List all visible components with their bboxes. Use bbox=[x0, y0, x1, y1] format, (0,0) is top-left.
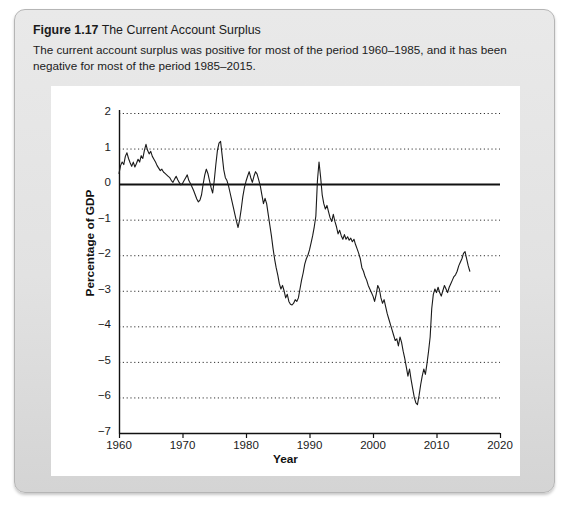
plot-area: Percentage of GDP Year 210−1−2−3−4−5−6−7… bbox=[51, 86, 520, 476]
y-tick-label: −7 bbox=[83, 425, 111, 437]
x-tick-label: 1960 bbox=[102, 439, 136, 451]
x-tick-label: 1970 bbox=[166, 439, 200, 451]
y-tick-label: 1 bbox=[83, 141, 111, 153]
x-tick-label: 2000 bbox=[356, 439, 390, 451]
y-tick-label: −1 bbox=[83, 212, 111, 224]
x-tick-label: 1990 bbox=[293, 439, 327, 451]
x-tick-label: 2010 bbox=[420, 439, 454, 451]
y-tick-label: −2 bbox=[83, 247, 111, 259]
y-axis-title: Percentage of GDP bbox=[83, 190, 97, 297]
y-tick-label: 0 bbox=[83, 176, 111, 188]
chart-panel: Percentage of GDP Year 210−1−2−3−4−5−6−7… bbox=[51, 86, 520, 476]
y-tick-label: −3 bbox=[83, 283, 111, 295]
y-tick-label: 2 bbox=[83, 105, 111, 117]
figure-frame: Figure 1.17 The Current Account Surplus … bbox=[14, 9, 555, 493]
figure-subtitle: The current account surplus was positive… bbox=[33, 42, 533, 73]
x-tick-label: 1980 bbox=[229, 439, 263, 451]
y-tick-label: −4 bbox=[83, 318, 111, 330]
figure-title: The Current Account Surplus bbox=[102, 23, 261, 37]
x-axis-title: Year bbox=[51, 452, 520, 466]
line-chart-svg bbox=[51, 86, 520, 476]
y-tick-label: −6 bbox=[83, 389, 111, 401]
y-tick-label: −5 bbox=[83, 354, 111, 366]
figure-caption: Figure 1.17 The Current Account Surplus … bbox=[33, 22, 533, 73]
figure-number: Figure 1.17 bbox=[33, 23, 98, 37]
x-tick-label: 2020 bbox=[483, 439, 517, 451]
figure-title-line: Figure 1.17 The Current Account Surplus bbox=[33, 22, 533, 38]
